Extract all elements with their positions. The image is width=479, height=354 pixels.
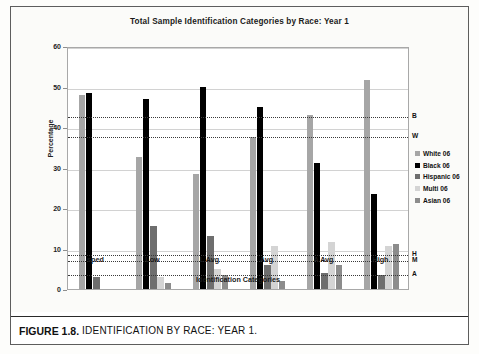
y-axis-tick-mark	[63, 290, 67, 291]
gridline	[68, 210, 408, 211]
gridline	[68, 251, 408, 252]
bar-group	[307, 48, 343, 289]
x-axis-tick-label: L Avg	[181, 255, 238, 264]
legend-item-label: White 06	[423, 150, 450, 157]
legend-swatch-icon	[415, 186, 420, 191]
caption-label: FIGURE 1.8.	[19, 325, 79, 337]
bar-white-06	[136, 157, 143, 289]
legend-item-label: Hispanic 06	[423, 173, 460, 180]
chart-title: Total Sample Identification Categories b…	[11, 17, 468, 26]
reference-label-w: W	[412, 132, 418, 139]
legend-item[interactable]: Hispanic 06	[415, 171, 460, 183]
caption-text: IDENTIFICATION BY RACE: YEAR 1.	[82, 325, 257, 336]
y-axis-tick-label: 20	[35, 205, 61, 213]
legend-item[interactable]: Asian 06	[415, 194, 460, 206]
bar-group	[79, 48, 115, 289]
reference-label-a: A	[412, 270, 417, 277]
gridline	[68, 89, 408, 90]
gridline	[68, 170, 408, 171]
legend-swatch-icon	[415, 174, 420, 179]
bar-group	[250, 48, 286, 289]
x-axis-tick-label: A Avg	[295, 255, 352, 264]
gridline	[68, 129, 408, 130]
y-axis-tick-label: 40	[35, 124, 61, 132]
bar-black-06	[314, 163, 321, 289]
y-axis-tick-label: 10	[35, 246, 61, 254]
bar-group	[136, 48, 172, 289]
figure-page: Total Sample Identification Categories b…	[0, 0, 479, 354]
chart-container: Total Sample Identification Categories b…	[11, 7, 468, 312]
x-axis-tick-label: Low	[124, 255, 181, 264]
legend-item-label: Asian 06	[423, 197, 450, 204]
chart-legend: White 06Black 06Hispanic 06Multi 06Asian…	[415, 148, 460, 206]
legend-item[interactable]: Multi 06	[415, 183, 460, 195]
reference-line-b	[68, 117, 408, 118]
x-axis-label: Identification Categories	[67, 275, 409, 284]
legend-item[interactable]: Black 06	[415, 160, 460, 172]
legend-item[interactable]: White 06	[415, 148, 460, 160]
x-axis-tick-label: Avg	[238, 255, 295, 264]
x-axis-tick-label: High	[352, 255, 409, 264]
bar-group	[193, 48, 229, 289]
figure-caption: FIGURE 1.8. IDENTIFICATION BY RACE: YEAR…	[11, 316, 468, 344]
legend-swatch-icon	[415, 163, 420, 168]
y-axis-tick-label: 0	[35, 286, 61, 294]
y-axis-tick-label: 60	[35, 43, 61, 51]
legend-item-label: Black 06	[423, 162, 450, 169]
plot-area	[67, 47, 409, 290]
reference-line-w	[68, 137, 408, 138]
bar-white-06	[250, 137, 257, 289]
bar-white-06	[193, 174, 200, 289]
legend-item-label: Multi 06	[423, 185, 448, 192]
y-axis-tick-label: 50	[35, 84, 61, 92]
legend-swatch-icon	[415, 198, 420, 203]
bar-group	[364, 48, 400, 289]
legend-swatch-icon	[415, 151, 420, 156]
reference-label-m: M	[412, 256, 418, 263]
gridline	[68, 48, 408, 49]
x-axis-tick-label: sped	[67, 255, 124, 264]
y-axis-tick-label: 30	[35, 165, 61, 173]
reference-label-b: B	[412, 112, 417, 119]
